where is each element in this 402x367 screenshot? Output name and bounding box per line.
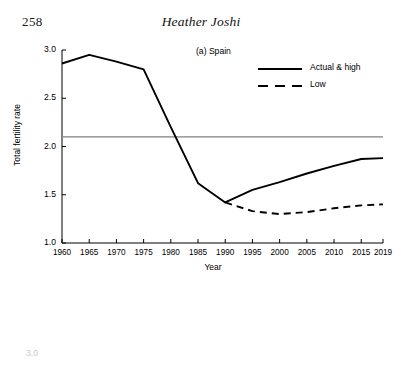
x-tick-label: 1980 [156,248,186,257]
x-tick-label: 2010 [319,248,349,257]
next-figure-y-tick-label: 3.0 [26,348,38,358]
x-tick-label: 2000 [265,248,295,257]
x-tick-label: 1960 [47,248,77,257]
running-head-author: Heather Joshi [0,14,402,30]
y-tick-label: 3.0 [30,44,56,54]
x-tick-label: 2005 [292,248,322,257]
x-tick-label: 1975 [129,248,159,257]
x-tick-label: 1985 [183,248,213,257]
x-tick-label: 1965 [74,248,104,257]
x-tick-label: 1970 [101,248,131,257]
y-tick-label: 1.0 [30,237,56,247]
chart-plot-area [0,34,402,284]
x-tick-label: 1990 [210,248,240,257]
figure-spain-fertility: (a) Spain Actual & high Low Total fertil… [0,34,402,284]
y-tick-label: 2.0 [30,141,56,151]
y-tick-label: 2.5 [30,92,56,102]
page-header: 258 Heather Joshi [0,14,402,36]
x-tick-label: 2019 [368,248,398,257]
y-tick-label: 1.5 [30,189,56,199]
x-tick-label: 1995 [237,248,267,257]
next-figure-partial: 3.0 [0,344,402,367]
